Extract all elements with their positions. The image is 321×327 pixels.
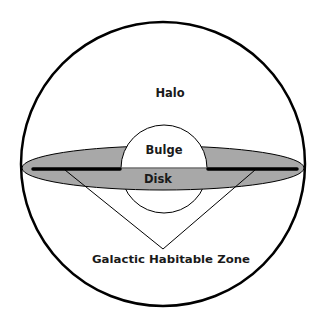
diagram-canvas: Halo Bulge Disk Galactic Habitable Zone: [0, 0, 321, 327]
ghz-label: Galactic Habitable Zone: [92, 253, 250, 266]
galaxy-diagram: Halo Bulge Disk Galactic Habitable Zone: [0, 0, 321, 327]
bulge-label: Bulge: [146, 143, 183, 157]
halo-label: Halo: [155, 86, 184, 100]
disk-label: Disk: [144, 172, 172, 186]
